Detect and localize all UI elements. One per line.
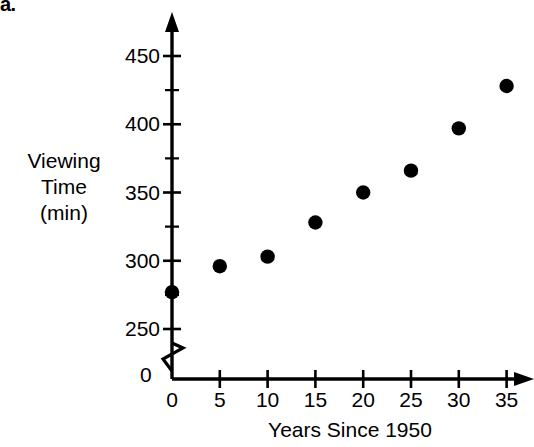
- data-points-group: [165, 79, 514, 300]
- scatter-plot-figure: a. Viewing Time (min) Years Since 1950 0…: [0, 0, 534, 447]
- axes-group: [165, 12, 534, 386]
- data-point: [452, 121, 466, 135]
- ticks-group: [163, 56, 507, 388]
- data-point: [213, 259, 227, 273]
- x-axis-arrowhead: [514, 372, 534, 386]
- data-point: [404, 163, 418, 177]
- plot-area: [0, 0, 534, 447]
- y-axis-arrowhead: [165, 12, 179, 32]
- data-point: [260, 249, 274, 263]
- data-point: [165, 285, 179, 299]
- data-point: [308, 215, 322, 229]
- data-point: [356, 185, 370, 199]
- data-point: [499, 79, 513, 93]
